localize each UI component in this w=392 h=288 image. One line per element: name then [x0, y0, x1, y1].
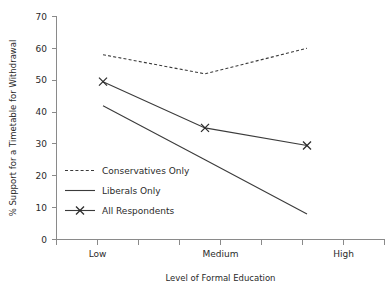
y-tick-label-0: 0 — [41, 235, 47, 245]
x-category-label-high: High — [333, 249, 354, 259]
y-tick-label-20: 20 — [36, 171, 48, 181]
legend-item-liberals-only[interactable]: Liberals Only — [65, 186, 161, 196]
legend-label-liberals-only: Liberals Only — [102, 186, 161, 196]
y-tick-label-60: 60 — [36, 44, 48, 54]
series-line-all-respondents — [103, 82, 307, 146]
y-axis-tick-labels: 0 10 20 30 40 50 60 70 — [36, 12, 48, 245]
data-point-marker-low — [99, 78, 107, 86]
legend-item-conservatives-only[interactable]: Conservatives Only — [65, 166, 190, 176]
x-axis-ticks — [57, 240, 385, 246]
chart-container: 0 10 20 30 40 50 60 70 Low Medium High — [0, 0, 392, 288]
y-axis-title: % Support for a Timetable for Withdrawal — [8, 40, 18, 217]
series-all-respondents — [99, 78, 311, 150]
x-axis-category-labels: Low Medium High — [89, 249, 354, 259]
y-tick-label-40: 40 — [36, 107, 48, 117]
x-category-label-medium: Medium — [203, 249, 239, 259]
y-tick-label-30: 30 — [36, 139, 48, 149]
x-category-label-low: Low — [89, 249, 107, 259]
legend-item-all-respondents[interactable]: All Respondents — [65, 206, 175, 216]
series-liberals-only — [103, 106, 307, 214]
legend-label-conservatives-only: Conservatives Only — [102, 166, 190, 176]
y-tick-label-50: 50 — [36, 75, 48, 85]
chart-legend: Conservatives Only Liberals Only All Res… — [65, 166, 190, 216]
series-line-conservatives-only — [103, 48, 307, 74]
line-chart: 0 10 20 30 40 50 60 70 Low Medium High — [0, 0, 392, 288]
y-axis-ticks — [52, 16, 57, 239]
y-tick-label-10: 10 — [36, 203, 48, 213]
x-axis-title: Level of Formal Education — [165, 273, 275, 283]
series-conservatives-only — [103, 48, 307, 74]
legend-label-all-respondents: All Respondents — [102, 206, 175, 216]
series-line-liberals-only — [103, 106, 307, 214]
y-tick-label-70: 70 — [36, 12, 48, 22]
